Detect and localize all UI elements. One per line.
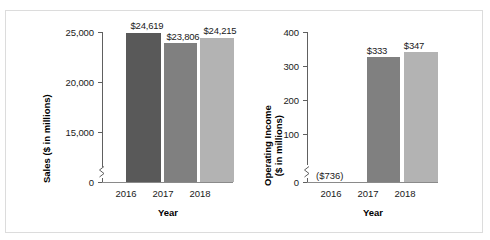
sales-x-axis-line [102, 182, 233, 183]
sales-ytick-label-1: 20,000 [50, 77, 94, 88]
sales-y-axis-title: Sales ($ in millions) [41, 94, 52, 183]
chart-operating-income: Operating Income ($ in millions) 400 300… [251, 11, 484, 232]
figure-canvas: Sales ($ in millions) 25,000 20,000 15,0… [0, 0, 490, 240]
income-bar-label-2018: $347 [374, 40, 454, 51]
income-y-axis-title-line1: Operating Income [263, 105, 274, 186]
chart-panel: Sales ($ in millions) 25,000 20,000 15,0… [5, 10, 483, 233]
sales-xtick-label-2018: 2018 [175, 188, 225, 199]
income-bar-2018[interactable] [404, 52, 438, 182]
income-ytick-label-0: 400 [263, 27, 299, 38]
chart-sales: Sales ($ in millions) 25,000 20,000 15,0… [6, 11, 251, 232]
clipped-header-fragment [0, 0, 490, 9]
income-x-axis-line [307, 182, 438, 183]
sales-ytick-label-2: 15,000 [50, 127, 94, 138]
sales-ytick-label-3: 0 [68, 177, 94, 188]
sales-ytick-label-0: 25,000 [50, 27, 94, 38]
sales-x-axis-title: Year [128, 207, 208, 218]
sales-bar-2018[interactable] [200, 38, 234, 182]
sales-plot-area [103, 32, 233, 182]
sales-bar-2017[interactable] [164, 43, 197, 182]
clipped-header-text [0, 0, 3, 5]
income-ytick-label-3: 100 [263, 129, 299, 140]
sales-bar-2016[interactable] [126, 33, 161, 182]
income-bar-2017[interactable] [367, 57, 400, 182]
income-ytick-label-2: 200 [263, 95, 299, 106]
income-ytick-label-4: 0 [273, 177, 299, 188]
income-x-axis-title: Year [333, 207, 413, 218]
income-bar-label-2016: ($736) [316, 170, 343, 181]
income-y-axis-title: Operating Income ($ in millions) [263, 105, 284, 186]
income-xtick-label-2018: 2018 [380, 188, 430, 199]
income-ytick-label-1: 300 [263, 61, 299, 72]
income-y-axis-title-line2: ($ in millions) [274, 105, 285, 186]
